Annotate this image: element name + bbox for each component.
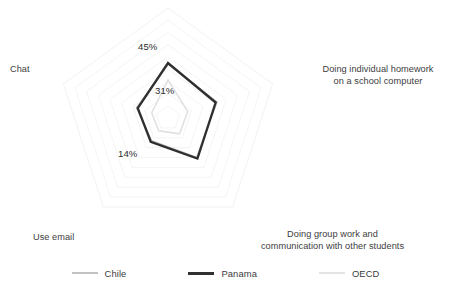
axis-label-chat: Chat: [10, 64, 60, 76]
legend-item-panama[interactable]: Panama: [188, 268, 257, 279]
legend-label: Panama: [221, 268, 257, 279]
data-label-top-outer: 45%: [138, 41, 158, 52]
chart-legend: ChilePanamaOECD: [0, 262, 451, 284]
radar-series-group: [137, 63, 217, 159]
legend-item-chile[interactable]: Chile: [72, 268, 127, 279]
legend-swatch-line-icon: [72, 272, 98, 274]
axis-label-use-email: Use email: [33, 232, 103, 244]
data-label-top-inner: 31%: [155, 85, 175, 96]
legend-label: OECD: [352, 268, 380, 279]
legend-swatch-line-icon: [188, 272, 214, 275]
series-polygon-chile: [137, 64, 217, 157]
axis-label-groupwork: Doing group work and communication with …: [225, 229, 440, 252]
legend-swatch-line-icon: [319, 272, 345, 274]
data-label-left-lower: 14%: [118, 148, 138, 159]
grid-ring: [145, 94, 192, 138]
legend-item-oecd[interactable]: OECD: [319, 268, 380, 279]
axis-label-homework: Doing individual homework on a school co…: [308, 64, 448, 87]
series-polygon-panama: [138, 63, 216, 159]
grid-ring: [87, 32, 250, 187]
grid-ring: [156, 106, 179, 128]
radar-grid: [63, 8, 272, 207]
legend-label: Chile: [105, 268, 127, 279]
